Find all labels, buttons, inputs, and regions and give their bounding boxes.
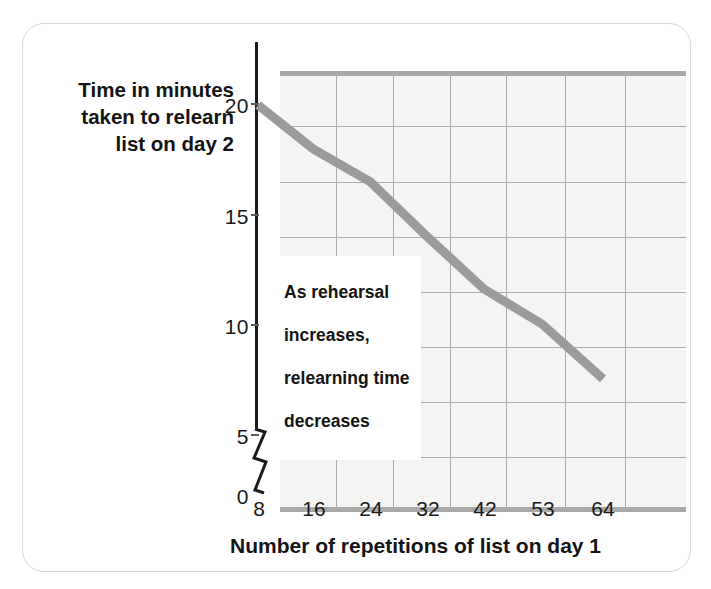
annotation-callout: As rehearsal increases, relearning time … bbox=[280, 256, 421, 460]
y-axis-title-line: list on day 2 bbox=[34, 130, 234, 157]
y-tick-label: 5 bbox=[203, 425, 249, 449]
y-axis-title-line: taken to relearn bbox=[34, 103, 234, 130]
x-tick-label: 24 bbox=[359, 497, 382, 521]
x-tick-label: 32 bbox=[416, 497, 439, 521]
x-tick-label: 42 bbox=[473, 497, 496, 521]
y-tick-mark bbox=[251, 434, 259, 436]
axis-break-zigzag-icon bbox=[248, 428, 272, 494]
x-tick-label: 16 bbox=[302, 497, 325, 521]
y-tick-mark bbox=[251, 214, 259, 216]
annotation-line: increases, bbox=[284, 325, 409, 347]
x-tick-label: 8 bbox=[253, 497, 265, 521]
annotation-line: As rehearsal bbox=[284, 282, 409, 304]
x-tick-label: 64 bbox=[591, 497, 614, 521]
x-axis-ticks: 8 16 24 32 42 53 64 bbox=[0, 497, 711, 527]
y-tick-mark bbox=[251, 324, 259, 326]
gridline-vertical bbox=[565, 71, 566, 512]
y-tick-label: 15 bbox=[203, 205, 249, 229]
y-axis-title: Time in minutes taken to relearn list on… bbox=[34, 76, 234, 157]
gridline-vertical bbox=[625, 71, 626, 512]
annotation-line: decreases bbox=[284, 411, 409, 433]
y-tick-mark bbox=[251, 103, 259, 105]
y-axis-line bbox=[255, 42, 258, 432]
gridline-vertical bbox=[506, 71, 507, 512]
annotation-line: relearning time bbox=[284, 368, 409, 390]
x-tick-label: 53 bbox=[531, 497, 554, 521]
y-axis-title-line: Time in minutes bbox=[34, 76, 234, 103]
gridline-vertical bbox=[450, 71, 451, 512]
x-axis-title: Number of repetitions of list on day 1 bbox=[0, 534, 711, 558]
y-tick-label: 10 bbox=[203, 315, 249, 339]
